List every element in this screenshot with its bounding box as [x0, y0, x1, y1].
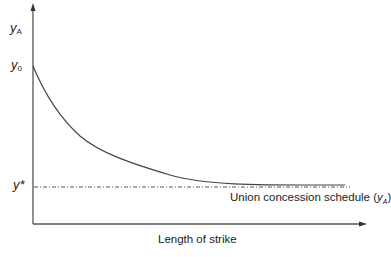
ystar-label: y* — [13, 177, 25, 192]
x-axis-label: Length of strike — [158, 233, 237, 245]
concession-curve — [33, 66, 345, 185]
curve-label: Union concession schedule (yA) — [230, 191, 391, 205]
y0-label: y0 — [11, 57, 22, 73]
y-axis-arrow-icon — [31, 3, 36, 11]
x-axis-arrow-icon — [359, 222, 367, 227]
y-axis-label: yA — [10, 20, 22, 36]
